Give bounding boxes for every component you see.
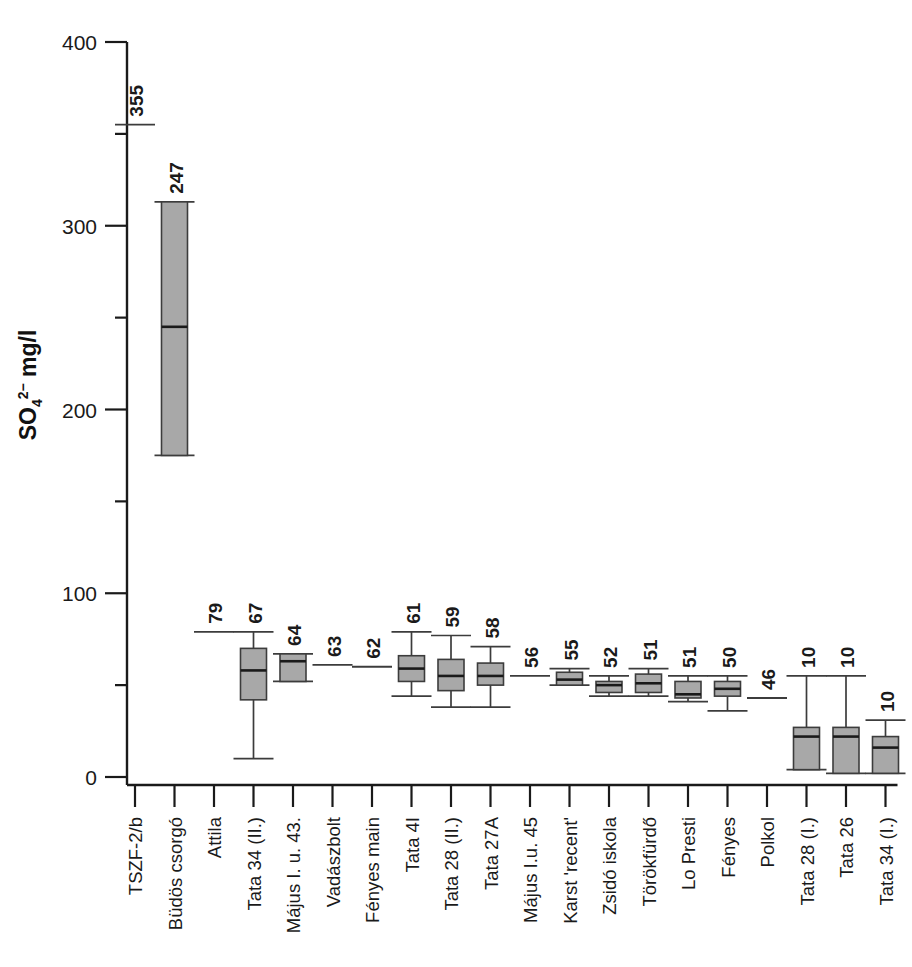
box-plot-item [787, 676, 827, 770]
x-tick-label: Attila [204, 816, 225, 858]
y-axis-label-unit: mg/l [15, 330, 41, 384]
box-plot-item [550, 669, 590, 686]
x-tick-label: Tata 34 (I.) [876, 817, 897, 905]
value-label: 10 [837, 647, 858, 668]
box-plot-item [589, 676, 629, 696]
value-label: 59 [442, 606, 463, 627]
x-tick-label: Tata 28 (II.) [441, 817, 462, 911]
x-tick-label: Május I.u. 45 [520, 817, 541, 923]
x-tick-label: Karst 'recent' [560, 817, 581, 924]
value-labels-layer: 3552477967646362615958565552515150461010… [126, 85, 898, 712]
box-plot-item [471, 647, 511, 708]
x-tick-label: TSZF-2/b [125, 817, 146, 895]
x-tick-label: Zsidó iskola [599, 816, 620, 914]
x-tick-label: Polkol [757, 817, 778, 867]
value-label: 51 [640, 639, 661, 661]
value-label: 52 [600, 647, 621, 668]
box-iqr [162, 202, 188, 456]
boxplot-chart: SO42− mg/l 0100200300400 TSZF-2/bBüdös c… [0, 0, 912, 967]
y-axis-label: SO42− mg/l [15, 330, 45, 441]
value-label: 55 [561, 639, 582, 661]
plot-layer [115, 125, 906, 774]
value-label: 51 [679, 646, 700, 668]
x-tick-label: Tata 34 (II.) [244, 817, 265, 911]
box-iqr [241, 648, 267, 699]
box-plot-item [273, 654, 313, 682]
value-label: 79 [205, 603, 226, 624]
value-label: 58 [482, 617, 503, 638]
box-iqr [280, 654, 306, 682]
box-plot-item [826, 676, 866, 773]
y-tick-label: 300 [62, 215, 97, 238]
x-tick-label: Tata 26 [836, 817, 857, 878]
y-tick-label: 100 [62, 582, 97, 605]
value-label: 46 [758, 669, 779, 690]
x-tick-label: Lo Presti [678, 817, 699, 890]
y-tick-label: 400 [62, 31, 97, 54]
box-iqr [478, 663, 504, 685]
chart-svg: SO42− mg/l 0100200300400 TSZF-2/bBüdös c… [0, 0, 912, 967]
x-tick-label: Tata 4I [402, 817, 423, 873]
x-tick-label: Tata 28 (I.) [797, 817, 818, 905]
x-tick-label: Törökfürdő [639, 817, 660, 906]
value-label: 63 [324, 636, 345, 657]
y-tick-label: 200 [62, 399, 97, 422]
box-iqr [794, 727, 820, 769]
value-label: 56 [521, 647, 542, 668]
box-plot-item [234, 632, 274, 759]
y-axis-label-sup: 2− [15, 383, 31, 399]
box-plot-item [629, 669, 669, 697]
box-iqr [833, 727, 859, 773]
x-tick-label: Fényes [718, 817, 739, 878]
x-tick-label: Vadászbolt [323, 817, 344, 907]
y-axis-label-main: SO [15, 407, 41, 440]
value-label: 10 [877, 691, 898, 712]
x-tick-label: Büdös csorgó [165, 817, 186, 930]
value-label: 61 [403, 602, 424, 624]
box-iqr [873, 737, 899, 774]
box-plot-item [155, 202, 195, 456]
box-plot-item [431, 636, 471, 708]
x-tick-label: Fényes main [362, 817, 383, 923]
y-axis-label-group: SO42− mg/l [15, 330, 45, 441]
value-label: 247 [166, 162, 187, 194]
value-label: 62 [363, 638, 384, 659]
value-label: 67 [245, 603, 266, 624]
x-tick-label: Május I. u. 43. [283, 817, 304, 933]
box-plot-item [708, 676, 748, 711]
value-label: 355 [126, 85, 147, 117]
box-iqr [596, 681, 622, 692]
value-label: 64 [284, 624, 305, 646]
x-tick-label: Tata 27A [481, 816, 502, 890]
value-label: 50 [719, 647, 740, 668]
box-plot-item [668, 676, 708, 702]
x-tick-labels-layer: TSZF-2/bBüdös csorgóAttilaTata 34 (II.)M… [125, 816, 897, 933]
box-plot-item [866, 720, 906, 773]
value-label: 10 [798, 647, 819, 668]
y-tick-label: 0 [85, 766, 97, 789]
box-plot-item [392, 632, 432, 696]
y-axis-label-sub: 4 [29, 399, 45, 407]
